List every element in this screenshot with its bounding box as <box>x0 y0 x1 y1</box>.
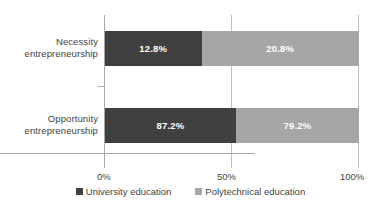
x-tick-label-50: 50% <box>217 171 236 182</box>
bar-segment-university-necessity[interactable]: 12.8% <box>105 31 202 66</box>
bar-segment-polytechnical-opportunity[interactable]: 79.2% <box>236 108 359 143</box>
bar-data-label: 79.2% <box>283 120 311 131</box>
bar-segment-university-opportunity[interactable]: 87.2% <box>105 108 236 143</box>
category-label-line-1: Opportunity <box>0 113 98 125</box>
category-label-opportunity: Opportunity entrepreneurship <box>0 113 98 136</box>
x-tick-label-0: 0% <box>97 171 111 182</box>
x-tick-label-100: 100% <box>340 171 364 182</box>
category-label-necessity: Necessity entrepreneurship <box>0 36 98 59</box>
square-swatch-light-icon <box>195 188 202 195</box>
chart-legend: University education Polytechnical educa… <box>0 186 381 197</box>
category-label-line-2: entrepreneurship <box>0 125 98 137</box>
legend-label: University education <box>86 186 172 197</box>
bar-segment-polytechnical-necessity[interactable]: 20.8% <box>202 31 359 66</box>
legend-item-university[interactable]: University education <box>76 186 172 197</box>
legend-label: Polytechnical education <box>205 186 305 197</box>
square-swatch-dark-icon <box>76 188 83 195</box>
bar-data-label: 20.8% <box>266 43 294 54</box>
category-label-line-2: entrepreneurship <box>0 48 98 60</box>
legend-item-polytechnical[interactable]: Polytechnical education <box>195 186 305 197</box>
bar-data-label: 87.2% <box>156 120 184 131</box>
bar-data-label: 12.8% <box>139 43 167 54</box>
y-axis-tick-mid <box>98 86 104 87</box>
category-label-line-1: Necessity <box>0 36 98 48</box>
x-axis-line <box>0 153 255 154</box>
stacked-bar-chart: Necessity entrepreneurship Opportunity e… <box>0 0 381 208</box>
plot-area: 12.8% 20.8% 87.2% 79.2% <box>104 15 359 168</box>
